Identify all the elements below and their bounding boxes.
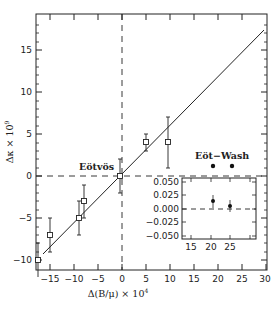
svg-text:10: 10 [21,87,33,97]
y-axis-label: Δκ × 109 [3,120,15,163]
y-tick-labels: 15 10 5 0 −5 −10 [13,45,32,265]
svg-text:−0.025: −0.025 [146,217,179,227]
svg-text:0: 0 [26,171,32,181]
svg-text:15: 15 [21,45,32,55]
eotvos-points [36,117,171,277]
svg-text:20: 20 [212,274,224,284]
x-axis-label: Δ(B/μ) × 104 [88,287,149,299]
svg-text:0.025: 0.025 [153,190,179,200]
chart: Eötvös Eöt−Wash −15 −10 −5 0 5 10 15 20 … [0,0,273,310]
svg-text:30: 30 [259,274,271,284]
svg-text:−0.050: −0.050 [146,231,180,241]
svg-text:25: 25 [236,274,247,284]
x-tick-labels: −15 −10 −5 0 5 10 15 20 25 30 [41,274,271,284]
inset-chart: 15 20 25 0.050 0.025 0.000 −0.025 −0.050 [146,177,256,252]
svg-text:15: 15 [185,242,196,252]
svg-text:5: 5 [26,129,32,139]
svg-text:−5: −5 [19,213,32,223]
svg-text:−10: −10 [65,274,84,284]
eotwash-label: Eöt−Wash [195,150,249,161]
svg-text:0: 0 [119,274,125,284]
svg-text:0.000: 0.000 [153,204,179,214]
svg-text:15: 15 [188,274,199,284]
svg-text:−10: −10 [13,255,32,265]
svg-text:25: 25 [224,242,235,252]
svg-text:0.050: 0.050 [153,177,179,187]
eotvos-label: Eötvös [79,161,114,172]
eotwash-point [230,164,234,168]
svg-text:−15: −15 [41,274,60,284]
svg-text:10: 10 [164,274,176,284]
svg-text:20: 20 [205,242,217,252]
svg-text:−5: −5 [91,274,104,284]
svg-text:5: 5 [143,274,149,284]
eotwash-point [211,164,215,168]
